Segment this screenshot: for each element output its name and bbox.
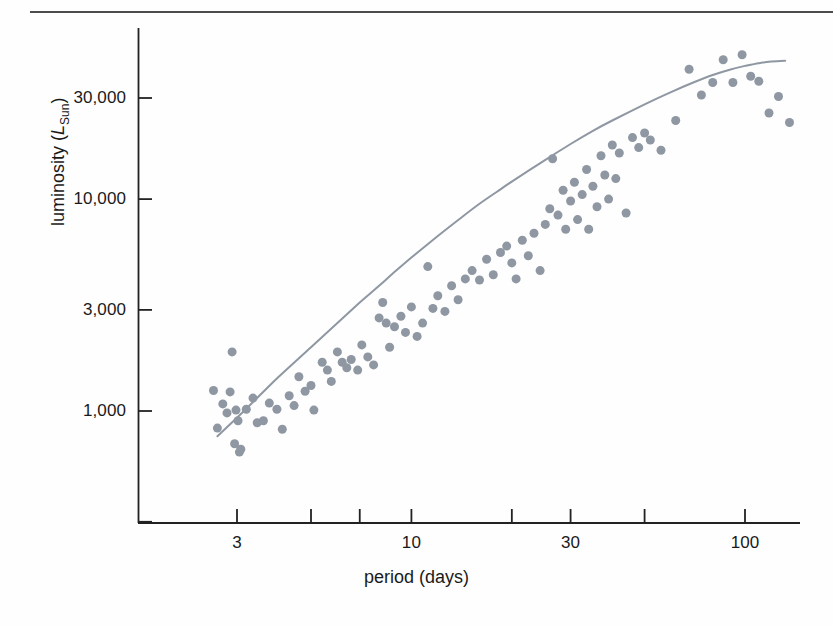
- data-point: [213, 424, 222, 433]
- data-point: [536, 266, 545, 275]
- figure-container: 30,00010,0003,0001,00031030100 period (d…: [0, 0, 833, 626]
- data-point: [468, 266, 477, 275]
- y-axis-title-symbol: L: [48, 125, 68, 135]
- data-point: [559, 186, 568, 195]
- data-point: [353, 366, 362, 375]
- data-point: [272, 405, 281, 414]
- data-point: [433, 291, 442, 300]
- data-point: [234, 416, 243, 425]
- data-point: [518, 236, 527, 245]
- x-tick-label-0: 3: [232, 533, 242, 553]
- data-point: [545, 204, 554, 213]
- y-axis-title-suffix: ): [48, 98, 68, 104]
- data-point: [440, 307, 449, 316]
- data-point: [685, 65, 694, 74]
- data-point: [475, 276, 484, 285]
- data-point: [548, 154, 557, 163]
- data-point: [541, 220, 550, 229]
- data-point: [259, 416, 268, 425]
- data-point: [628, 133, 637, 142]
- data-point: [588, 182, 597, 191]
- x-axis-title: period (days): [0, 567, 833, 588]
- data-point: [461, 274, 470, 283]
- data-point: [561, 225, 570, 234]
- data-point: [524, 251, 533, 260]
- data-point: [236, 445, 245, 454]
- data-point: [646, 136, 655, 145]
- data-point: [593, 202, 602, 211]
- data-point: [608, 141, 617, 150]
- data-point: [347, 355, 356, 364]
- y-axis-title-subscript: Sun: [58, 104, 72, 125]
- data-point: [385, 343, 394, 352]
- data-point: [634, 143, 643, 152]
- data-point: [512, 274, 521, 283]
- data-point: [489, 270, 498, 279]
- data-point: [657, 146, 666, 155]
- data-point: [265, 399, 274, 408]
- x-tick-label-7: 100: [731, 533, 760, 553]
- data-point: [382, 319, 391, 328]
- data-point: [765, 109, 774, 118]
- y-tick-label-3: 3,000: [0, 300, 126, 320]
- x-tick-label-3: 10: [402, 533, 421, 553]
- data-point: [309, 406, 318, 415]
- data-point: [530, 229, 539, 238]
- data-point: [719, 55, 728, 64]
- data-point: [728, 78, 737, 87]
- data-point: [554, 211, 563, 220]
- data-point: [223, 408, 232, 417]
- data-point: [226, 387, 235, 396]
- data-point: [396, 312, 405, 321]
- data-point: [578, 190, 587, 199]
- data-point: [584, 225, 593, 234]
- scatter-points: [209, 50, 794, 456]
- data-point: [407, 302, 416, 311]
- data-point: [640, 129, 649, 138]
- data-point: [285, 391, 294, 400]
- data-point: [604, 195, 613, 204]
- data-point: [600, 171, 609, 180]
- data-point: [774, 92, 783, 101]
- data-point: [390, 322, 399, 331]
- data-point: [566, 197, 575, 206]
- data-point: [307, 381, 316, 390]
- y-axis-title-prefix: luminosity (: [48, 135, 68, 226]
- data-point: [697, 91, 706, 100]
- data-point: [290, 401, 299, 410]
- data-point: [746, 72, 755, 81]
- data-point: [209, 386, 218, 395]
- data-point: [363, 352, 372, 361]
- data-point: [228, 347, 237, 356]
- data-point: [738, 50, 747, 59]
- data-point: [447, 281, 456, 290]
- data-point: [708, 78, 717, 87]
- data-point: [611, 174, 620, 183]
- data-point: [333, 347, 342, 356]
- data-point: [342, 363, 351, 372]
- data-point: [671, 116, 680, 125]
- data-point: [242, 405, 251, 414]
- data-point: [369, 360, 378, 369]
- data-point: [218, 399, 227, 408]
- y-tick-label-4: 1,000: [0, 401, 126, 421]
- data-point: [597, 151, 606, 160]
- data-point: [785, 118, 794, 127]
- data-point: [327, 377, 336, 386]
- data-point: [582, 165, 591, 174]
- data-point: [401, 328, 410, 337]
- data-point: [323, 366, 332, 375]
- data-point: [454, 295, 463, 304]
- data-point: [278, 425, 287, 434]
- x-tick-label-5: 30: [561, 533, 580, 553]
- data-point: [357, 340, 366, 349]
- data-point: [413, 332, 422, 341]
- data-point: [615, 149, 624, 158]
- data-point: [423, 262, 432, 271]
- data-point: [294, 372, 303, 381]
- data-point: [378, 298, 387, 307]
- y-axis-title: luminosity (LSun): [48, 42, 72, 282]
- data-point: [754, 77, 763, 86]
- data-point: [249, 394, 258, 403]
- data-point: [573, 215, 582, 224]
